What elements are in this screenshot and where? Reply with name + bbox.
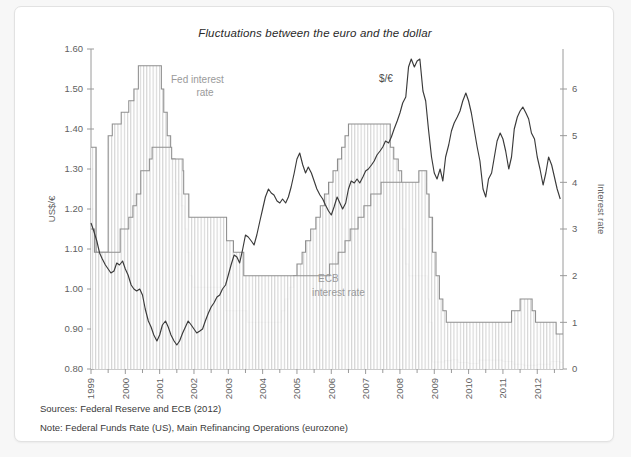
y-axis-tick-label: 1.20 [65, 203, 84, 214]
x-axis-tick-label: 2005 [291, 378, 302, 399]
x-axis-tick-label: 2007 [360, 378, 371, 399]
exchange-rate-interest-rate-chart: 0.800.901.001.101.201.301.401.501.60US$/… [15, 7, 615, 443]
x-axis-tick-label: 2004 [257, 378, 268, 399]
source-note: Sources: Federal Reserve and ECB (2012) [40, 403, 221, 414]
y2-axis-tick-label: 3 [572, 223, 577, 234]
screenshot-root: Fluctuations between the euro and the do… [0, 0, 631, 457]
y-axis-tick-label: 1.60 [65, 43, 84, 54]
x-axis-tick-label: 2008 [394, 378, 405, 399]
x-axis-tick-label: 2011 [497, 378, 508, 398]
y2-axis-tick-label: 5 [572, 130, 577, 141]
y2-axis-title: Interest rate [596, 184, 607, 235]
x-axis-tick-label: 2001 [154, 378, 165, 399]
chart-card: Fluctuations between the euro and the do… [14, 6, 614, 442]
x-axis-tick-label: 1999 [85, 378, 96, 399]
y2-axis-tick-label: 2 [572, 270, 577, 281]
x-axis-tick-label: 2002 [188, 378, 199, 399]
fed-rate-annotation-line2: rate [196, 87, 214, 98]
y2-axis-tick-label: 0 [572, 363, 577, 374]
y-axis-title: US$/€ [46, 195, 57, 222]
x-axis-tick-label: 2010 [463, 378, 474, 399]
fed-rate-annotation: Fed interest [171, 74, 224, 85]
y-axis-tick-label: 0.80 [65, 363, 84, 374]
y2-axis-tick-label: 4 [572, 177, 577, 188]
method-note: Note: Federal Funds Rate (US), Main Refi… [40, 422, 348, 433]
y-axis-tick-label: 1.30 [65, 163, 84, 174]
x-axis-tick-label: 2003 [223, 378, 234, 399]
x-axis-tick-label: 2006 [326, 378, 337, 399]
y2-axis-tick-label: 6 [572, 83, 577, 94]
y-axis-tick-label: 0.90 [65, 323, 84, 334]
x-axis-tick-label: 2012 [532, 378, 543, 399]
exchange-rate-annotation: $/€ [379, 73, 393, 84]
ecb-rate-annotation: ECB [318, 273, 339, 284]
ecb-rate-annotation-line2: interest rate [312, 287, 365, 298]
y-axis-tick-label: 1.00 [65, 283, 84, 294]
y2-axis-tick-label: 1 [572, 317, 577, 328]
x-axis-tick-label: 2000 [120, 378, 131, 399]
x-axis-tick-label: 2009 [429, 378, 440, 399]
y-axis-tick-label: 1.50 [65, 83, 84, 94]
y-axis-tick-label: 1.10 [65, 243, 84, 254]
y-axis-tick-label: 1.40 [65, 123, 84, 134]
